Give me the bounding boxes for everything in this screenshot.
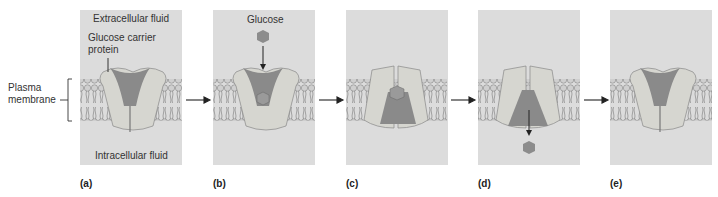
intracellular-label: Intracellular fluid	[95, 150, 168, 161]
glucose-label: Glucose	[247, 14, 284, 25]
carrier-b	[233, 30, 299, 130]
extracellular-label: Extracellular fluid	[93, 13, 169, 24]
carrier-label-2: protein	[88, 44, 119, 55]
carrier-label-1: Glucose carrier	[88, 32, 156, 43]
diagram-graphics	[0, 0, 718, 197]
caption-e: (e)	[610, 178, 622, 189]
plasma-label-2: membrane	[8, 94, 56, 105]
caption-d: (d)	[478, 178, 491, 189]
caption-c: (c)	[346, 178, 358, 189]
caption-a: (a)	[80, 178, 92, 189]
membrane-bracket	[60, 79, 72, 121]
carrier-e	[630, 68, 696, 132]
caption-b: (b)	[213, 178, 226, 189]
plasma-label-1: Plasma	[8, 82, 41, 93]
carrier-a	[100, 68, 166, 132]
carrier-c	[364, 66, 428, 128]
